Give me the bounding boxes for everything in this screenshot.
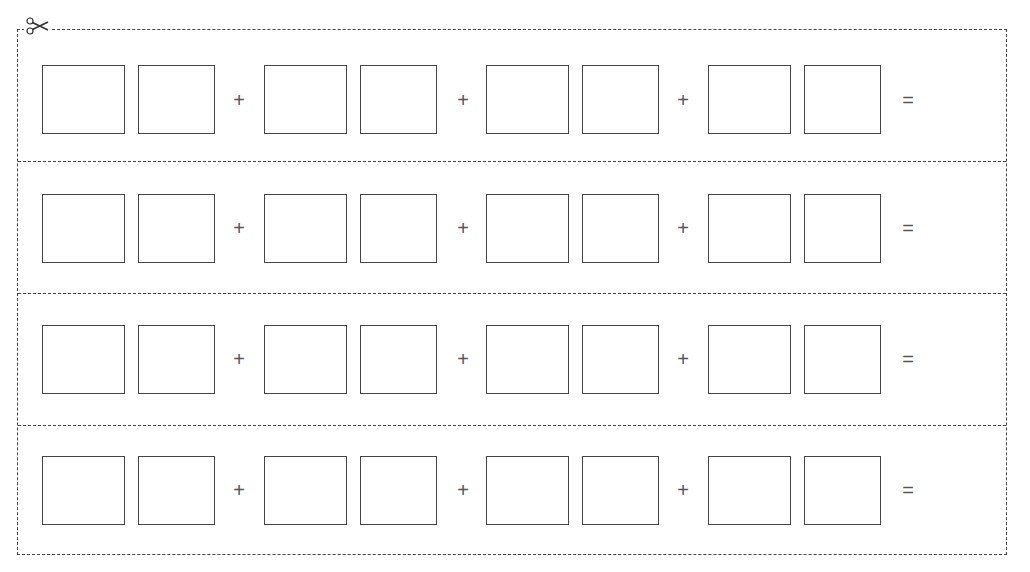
plus-sign: + [229, 218, 249, 238]
equals-sign: = [898, 349, 918, 369]
equals-sign: = [898, 218, 918, 238]
answer-box[interactable] [804, 325, 881, 394]
equation-row-2: + + + = [18, 161, 1006, 293]
answer-box[interactable] [360, 194, 437, 263]
plus-sign: + [673, 90, 693, 110]
scissors-icon [24, 16, 52, 36]
plus-sign: + [229, 349, 249, 369]
answer-box[interactable] [360, 65, 437, 134]
plus-sign: + [229, 90, 249, 110]
answer-box[interactable] [804, 65, 881, 134]
answer-box[interactable] [42, 325, 125, 394]
answer-box[interactable] [804, 194, 881, 263]
answer-box[interactable] [708, 456, 791, 525]
answer-box[interactable] [582, 194, 659, 263]
answer-box[interactable] [708, 65, 791, 134]
answer-box[interactable] [42, 456, 125, 525]
plus-sign: + [453, 349, 473, 369]
answer-box[interactable] [486, 325, 569, 394]
plus-sign: + [453, 90, 473, 110]
plus-sign: + [673, 480, 693, 500]
answer-box[interactable] [582, 325, 659, 394]
plus-sign: + [673, 218, 693, 238]
answer-box[interactable] [138, 194, 215, 263]
answer-box[interactable] [42, 194, 125, 263]
cut-out-sheet: + + + = + + + = + + + = [17, 29, 1007, 555]
answer-box[interactable] [708, 194, 791, 263]
answer-box[interactable] [264, 65, 347, 134]
answer-box[interactable] [486, 456, 569, 525]
answer-box[interactable] [486, 65, 569, 134]
answer-box[interactable] [582, 456, 659, 525]
answer-box[interactable] [360, 456, 437, 525]
answer-box[interactable] [804, 456, 881, 525]
answer-box[interactable] [138, 325, 215, 394]
equals-sign: = [898, 90, 918, 110]
answer-box[interactable] [360, 325, 437, 394]
answer-box[interactable] [264, 456, 347, 525]
answer-box[interactable] [138, 456, 215, 525]
equals-sign: = [898, 480, 918, 500]
equation-row-3: + + + = [18, 293, 1006, 425]
plus-sign: + [453, 218, 473, 238]
answer-box[interactable] [264, 194, 347, 263]
plus-sign: + [453, 480, 473, 500]
answer-box[interactable] [42, 65, 125, 134]
answer-box[interactable] [582, 65, 659, 134]
plus-sign: + [229, 480, 249, 500]
equation-row-1: + + + = [18, 30, 1006, 161]
answer-box[interactable] [138, 65, 215, 134]
answer-box[interactable] [486, 194, 569, 263]
plus-sign: + [673, 349, 693, 369]
answer-box[interactable] [264, 325, 347, 394]
answer-box[interactable] [708, 325, 791, 394]
equation-row-4: + + + = [18, 425, 1006, 556]
